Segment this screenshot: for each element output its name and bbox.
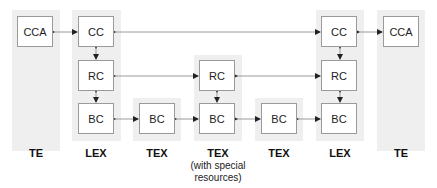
node-tex-1-bc: BC [139,103,175,134]
label-te-left: TE [6,147,66,159]
label-tex-2: TEX [249,147,309,159]
node-tex-special-bc: BC [199,103,235,134]
node-tex-special-rc: RC [199,60,235,91]
node-lex-right-bc: BC [321,103,357,134]
node-lex-right-cc: CC [321,16,357,47]
label-tex-1: TEX [127,147,187,159]
label-te-right: TE [371,147,431,159]
node-te-left-cca: CCA [17,16,53,47]
node-lex-left-rc: RC [78,60,114,91]
node-lex-left-cc: CC [78,16,114,47]
sublabel-tex-special-1: (with special [178,160,258,172]
label-lex-left: LEX [66,147,126,159]
label-lex-right: LEX [310,147,370,159]
sublabel-tex-special-2: resources) [178,172,258,184]
node-tex-2-bc: BC [261,103,297,134]
node-te-right-cca: CCA [383,16,419,47]
node-lex-right-rc: RC [321,60,357,91]
node-lex-left-bc: BC [78,103,114,134]
label-tex-special: TEX [188,147,248,159]
